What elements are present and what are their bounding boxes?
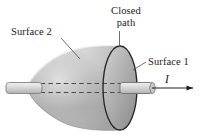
physics-figure-closed-path-surfaces: Surface 2 Closed path Surface 1 I — [0, 0, 205, 136]
label-surface-2: Surface 2 — [11, 26, 52, 38]
label-surface-1: Surface 1 — [148, 56, 189, 68]
figure-canvas — [0, 0, 205, 136]
label-closed-path: Closed path — [105, 5, 147, 28]
wire-segment-icon — [6, 83, 42, 94]
arrow-right-icon — [152, 85, 193, 90]
label-current-i: I — [165, 74, 169, 86]
label-closed-path-line-1: Closed — [105, 5, 147, 17]
wire-segment-icon — [120, 83, 155, 94]
label-closed-path-line-2: path — [105, 17, 147, 29]
